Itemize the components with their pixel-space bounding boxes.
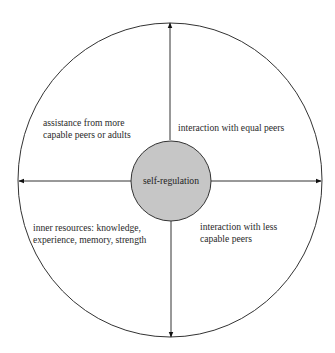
quadrant-bottom-left-line-2: experience, memory, strength (33, 234, 147, 245)
center-label: self-regulation (143, 175, 199, 186)
quadrant-top-right-line-1: interaction with equal peers (178, 122, 285, 133)
quadrant-top-left-line-2: capable peers or adults (43, 129, 131, 140)
quadrant-bottom-right-line-2: capable peers (200, 233, 252, 244)
self-regulation-diagram: self-regulation assistance from more cap… (0, 0, 335, 353)
quadrant-bottom-right-line-1: interaction with less (200, 221, 278, 232)
quadrant-top-left-line-1: assistance from more (43, 117, 125, 128)
quadrant-bottom-left-line-1: inner resources: knowledge, (33, 222, 141, 233)
